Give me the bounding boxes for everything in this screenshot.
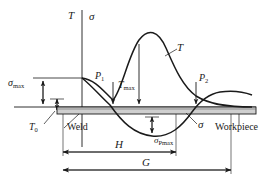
stress-axis-label: σ xyxy=(89,11,94,22)
workpiece-label: Workpiece xyxy=(215,122,258,132)
diagram-vector-layer xyxy=(0,0,280,180)
sigma-max-label: σmax xyxy=(8,78,24,88)
t0-subscript: 0 xyxy=(35,126,38,133)
temperature-curve xyxy=(82,32,252,107)
t0-leader-line xyxy=(44,111,55,124)
p2-subscript: 2 xyxy=(205,77,208,84)
workpiece-plate xyxy=(57,107,256,114)
welding-thermal-stress-diagram: T σ σmax T0 P1 P2 Tmax σPmax T σ Weld Wo… xyxy=(0,0,280,180)
t0-label: T0 xyxy=(29,122,38,132)
sigma-max-subscript: max xyxy=(13,82,24,89)
sigma-pmax-subscript: Pmax xyxy=(158,139,173,146)
p2-label: P2 xyxy=(199,73,208,83)
h-dimension-label: H xyxy=(115,139,123,150)
t-max-label: Tmax xyxy=(118,80,135,90)
t-max-symbol: T xyxy=(118,79,124,90)
sigma-pmax-dimension-arrow xyxy=(145,117,159,133)
temperature-curve-label: T xyxy=(177,42,183,53)
p1-label: P1 xyxy=(95,71,104,81)
t-max-subscript: max xyxy=(124,84,135,91)
t0-symbol: T xyxy=(29,121,35,132)
stress-curve-label: σ xyxy=(198,119,203,130)
p1-subscript: 1 xyxy=(101,75,104,82)
weld-label: Weld xyxy=(67,122,88,132)
sigma-pmax-label: σPmax xyxy=(154,136,173,145)
temperature-axis-label: T xyxy=(68,10,74,21)
g-dimension-label: G xyxy=(142,157,150,168)
